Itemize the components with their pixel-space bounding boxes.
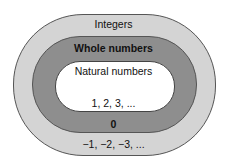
integers-label: Integers	[0, 18, 227, 30]
natural-numbers-label: Natural numbers	[0, 65, 227, 77]
negative-elements: −1, −2, −3, ...	[0, 138, 227, 150]
natural-elements: 1, 2, 3, ...	[0, 97, 227, 109]
zero-element: 0	[0, 118, 227, 130]
whole-numbers-label: Whole numbers	[0, 42, 227, 54]
